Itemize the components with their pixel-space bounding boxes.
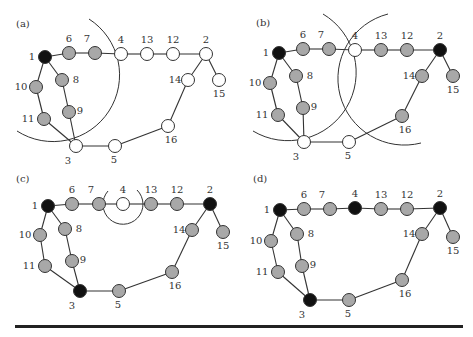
node-label-6: 6 [69,184,75,195]
node-8 [291,228,304,241]
node-label-15: 15 [447,245,460,256]
node-3 [298,136,311,149]
edge-14-16 [168,80,188,126]
node-label-14: 14 [173,224,186,235]
panel-label: (a) [16,18,30,29]
node-6 [298,203,311,216]
node-3 [304,294,317,307]
node-label-4: 4 [352,30,358,41]
panel-d: (d)12345678910111213141516 [250,173,460,320]
edge-16-5 [115,126,168,146]
node-14 [416,228,429,241]
node-15 [447,70,460,83]
node-label-1: 1 [264,204,270,215]
node-label-6: 6 [300,29,306,40]
node-label-16: 16 [399,288,412,299]
edge-16-5 [119,272,172,291]
node-12 [167,48,180,61]
node-label-8: 8 [73,74,79,85]
node-label-9: 9 [80,254,86,265]
node-label-12: 12 [171,184,184,195]
node-label-5: 5 [111,154,117,165]
node-13 [375,44,388,57]
node-13 [141,48,154,61]
node-8 [59,223,72,236]
node-label-8: 8 [307,70,313,81]
node-label-15: 15 [447,84,460,95]
edge-14-16 [402,234,422,280]
node-label-10: 10 [15,81,28,92]
node-label-1: 1 [32,200,38,211]
panel-label: (b) [256,17,270,28]
node-label-9: 9 [311,101,317,112]
node-15 [213,74,226,87]
panel-b: (b)12345678910111213141516 [249,14,460,162]
node-label-11: 11 [22,113,35,124]
node-1 [39,51,52,64]
node-label-12: 12 [401,30,414,41]
panel-label: (c) [16,173,30,184]
node-5 [109,140,122,153]
node-label-15: 15 [217,240,230,251]
node-14 [416,70,429,83]
node-9 [297,102,310,115]
node-9 [63,106,76,119]
node-3 [74,285,87,298]
node-label-13: 13 [145,184,158,195]
node-7 [89,47,102,60]
node-6 [297,43,310,56]
node-label-2: 2 [437,30,443,41]
node-10 [30,81,43,94]
node-label-11: 11 [256,109,269,120]
node-12 [401,203,414,216]
node-label-5: 5 [345,308,351,319]
node-label-14: 14 [403,228,416,239]
node-16 [162,120,175,133]
node-11 [38,113,51,126]
node-label-7: 7 [319,189,325,200]
node-label-16: 16 [165,134,178,145]
node-label-4: 4 [118,34,124,45]
node-4 [115,48,128,61]
node-2 [204,198,217,211]
node-label-3: 3 [293,151,299,162]
node-label-6: 6 [301,189,307,200]
node-6 [66,198,79,211]
node-label-13: 13 [141,34,154,45]
node-1 [42,200,55,213]
node-label-3: 3 [299,309,305,320]
node-5 [113,285,126,298]
node-label-9: 9 [77,105,83,116]
node-11 [39,260,52,273]
node-3 [70,140,83,153]
node-13 [375,203,388,216]
node-label-7: 7 [318,29,324,40]
node-9 [66,255,79,268]
node-label-11: 11 [256,266,269,277]
node-label-11: 11 [23,260,36,271]
node-11 [272,109,285,122]
panel-a: (a)12345678910111213141516 [15,18,226,166]
node-10 [264,77,277,90]
node-2 [434,202,447,215]
node-16 [166,266,179,279]
edge-16-5 [349,280,402,300]
graph-figure: (a)12345678910111213141516(b)12345678910… [0,0,473,337]
node-label-4: 4 [120,184,126,195]
node-label-13: 13 [375,189,388,200]
node-12 [401,44,414,57]
node-13 [145,198,158,211]
bottom-rule [15,325,463,328]
node-9 [296,260,309,273]
node-4 [349,44,362,57]
node-10 [34,229,47,242]
node-label-14: 14 [169,74,182,85]
node-label-10: 10 [250,235,263,246]
node-15 [447,231,460,244]
node-4 [349,202,362,215]
node-5 [343,136,356,149]
node-label-4: 4 [352,188,358,199]
node-1 [274,204,287,217]
node-7 [324,203,337,216]
node-4 [117,198,130,211]
